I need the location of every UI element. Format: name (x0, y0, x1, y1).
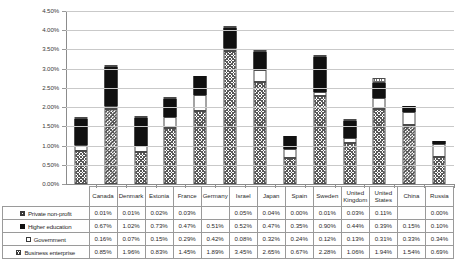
table-cell-value: 0.16% (89, 232, 117, 245)
bar-slot (126, 0, 156, 184)
table-column-header: Germany (201, 187, 229, 207)
stacked-bar[interactable] (104, 65, 117, 184)
bar-segment (283, 149, 296, 158)
table-cell-value: 0.69% (425, 245, 453, 258)
bar-slot (96, 0, 126, 184)
gridline (66, 165, 454, 166)
table-cell-value: 0.29% (173, 232, 201, 245)
table-cell-value: 2.65% (257, 245, 285, 258)
table-row: Government0.16%0.07%0.15%0.29%0.42%0.08%… (3, 232, 454, 245)
legend-label-text: Private non-profit (28, 210, 72, 217)
table-cell-value: 0.00% (425, 207, 453, 220)
y-tick-label: 2.50% (42, 85, 59, 91)
table-cell-value (397, 207, 425, 220)
table-cell-value: 0.52% (229, 219, 257, 232)
legend-swatch-icon (26, 237, 31, 242)
bar-slot (335, 0, 365, 184)
bar-segment (253, 82, 266, 184)
y-tick-label: 3.50% (42, 46, 59, 52)
data-table: CanadaDenmarkEstoniaFranceGermanyIsraelJ… (2, 186, 454, 259)
bar-slot (364, 0, 394, 184)
stacked-bar[interactable] (194, 76, 207, 184)
gridline (66, 146, 454, 147)
table-cell-value: 1.94% (369, 245, 397, 258)
table-cell-value: 0.24% (285, 232, 313, 245)
table-body: Private non-profit0.01%0.01%0.02%0.03%0.… (3, 207, 454, 259)
y-tick-label: 1.50% (42, 123, 59, 129)
bar-segment (134, 152, 147, 184)
bar-segment (313, 57, 326, 92)
table-cell-value: 0.00% (285, 207, 313, 220)
table-cell-value: 0.47% (173, 219, 201, 232)
stacked-bar[interactable] (283, 136, 296, 184)
table-column-header: France (173, 187, 201, 207)
legend-swatch-icon (16, 250, 21, 255)
stacked-bar[interactable] (74, 117, 87, 184)
table-cell-value: 0.08% (229, 232, 257, 245)
table-cell-value: 3.45% (229, 245, 257, 258)
gridline (66, 88, 454, 89)
table-column-header: Canada (89, 187, 117, 207)
table-cell-value: 0.31% (369, 232, 397, 245)
bar-segment (403, 112, 416, 125)
table-cell-value: 0.03% (173, 207, 201, 220)
x-axis-line (66, 184, 454, 185)
gridline (66, 69, 454, 70)
stacked-bar[interactable] (373, 78, 386, 184)
table-column-header: Sweden (313, 187, 341, 207)
table-cell-value: 0.34% (425, 232, 453, 245)
table-cell-value: 0.10% (425, 219, 453, 232)
table-column-header: Russia (425, 187, 453, 207)
bar-segment (74, 151, 87, 184)
bar-segment (194, 95, 207, 111)
bar-slot (66, 0, 96, 184)
legend-label-text: Business enterprise (24, 249, 75, 256)
table-cell-value: 0.01% (117, 207, 145, 220)
table-cell-value: 0.15% (145, 232, 173, 245)
bar-segment (164, 128, 177, 184)
table-cell-value: 0.51% (201, 219, 229, 232)
table-cell-value: 0.01% (313, 207, 341, 220)
stacked-bar[interactable] (433, 141, 446, 184)
table-cell-value: 1.02% (117, 219, 145, 232)
bar-slot (156, 0, 186, 184)
table-cell-value: 0.83% (145, 245, 173, 258)
table-cell-value: 0.85% (89, 245, 117, 258)
bar-slot (245, 0, 275, 184)
table-row: Higher education0.67%1.02%0.73%0.47%0.51… (3, 219, 454, 232)
stacked-bar[interactable] (164, 97, 177, 184)
table-cell-value: 0.35% (285, 219, 313, 232)
table-column-header: China (397, 187, 425, 207)
table-cell-value: 1.54% (397, 245, 425, 258)
stacked-column-chart-with-data-table: 0.00%0.50%1.00%1.50%2.00%2.50%3.00%3.50%… (0, 0, 456, 260)
table-cell-value: 0.42% (201, 232, 229, 245)
bar-segment (343, 121, 356, 138)
legend-row-label: Government (3, 232, 90, 245)
bar-segment (433, 157, 446, 184)
table-cell-value: 0.90% (313, 219, 341, 232)
bar-segment (224, 28, 237, 48)
bar-segment (403, 125, 416, 184)
table-column-header: Israel (229, 187, 257, 207)
bar-slot (394, 0, 424, 184)
bar-segment (104, 67, 117, 106)
table-column-header: United States (369, 187, 397, 207)
table-cell-value: 0.13% (341, 232, 369, 245)
bar-segment (283, 158, 296, 184)
y-tick-label: 2.00% (42, 104, 59, 110)
bar-segment (194, 111, 207, 184)
y-tick-label: 4.00% (42, 27, 59, 33)
bar-segment (373, 109, 386, 184)
table-cell-value: 2.28% (313, 245, 341, 258)
y-tick-label: 3.00% (42, 66, 59, 72)
gridline (66, 30, 454, 31)
gridlines-and-bars (66, 0, 454, 186)
table-column-header: Denmark (117, 187, 145, 207)
legend-header-cell (3, 187, 90, 207)
bar-segment (253, 52, 266, 70)
gridline (66, 126, 454, 127)
bar-slot (424, 0, 454, 184)
table-cell-value: 0.73% (145, 219, 173, 232)
stacked-bar[interactable] (343, 119, 356, 184)
bar-segment (194, 76, 207, 96)
